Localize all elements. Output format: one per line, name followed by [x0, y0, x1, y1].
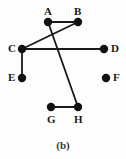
graph-node-g[interactable]: [47, 103, 55, 111]
graph-node-h[interactable]: [74, 103, 82, 111]
graph-node-label-d: D: [111, 43, 119, 54]
graph-node-label-f: F: [113, 72, 120, 83]
graph-node-label-b: B: [74, 6, 81, 17]
graph-node-c[interactable]: [18, 45, 26, 53]
graph-node-a[interactable]: [44, 18, 52, 26]
graph-node-label-h: H: [74, 114, 83, 125]
node-layer: [18, 18, 110, 111]
edge-A-H: [48, 22, 78, 107]
graph-node-d[interactable]: [100, 45, 108, 53]
graph-node-b[interactable]: [74, 18, 82, 26]
graph-node-f[interactable]: [102, 74, 110, 82]
graph-node-label-c: C: [8, 43, 16, 54]
graph-node-label-a: A: [44, 6, 52, 17]
graph-node-label-e: E: [8, 72, 15, 83]
graph-canvas: [0, 0, 126, 159]
figure-caption: (b): [0, 139, 126, 151]
edge-layer: [22, 22, 104, 107]
graph-node-e[interactable]: [18, 74, 26, 82]
graph-node-label-g: G: [47, 114, 56, 125]
graph-figure: ABCDEFGH (b): [0, 0, 126, 159]
